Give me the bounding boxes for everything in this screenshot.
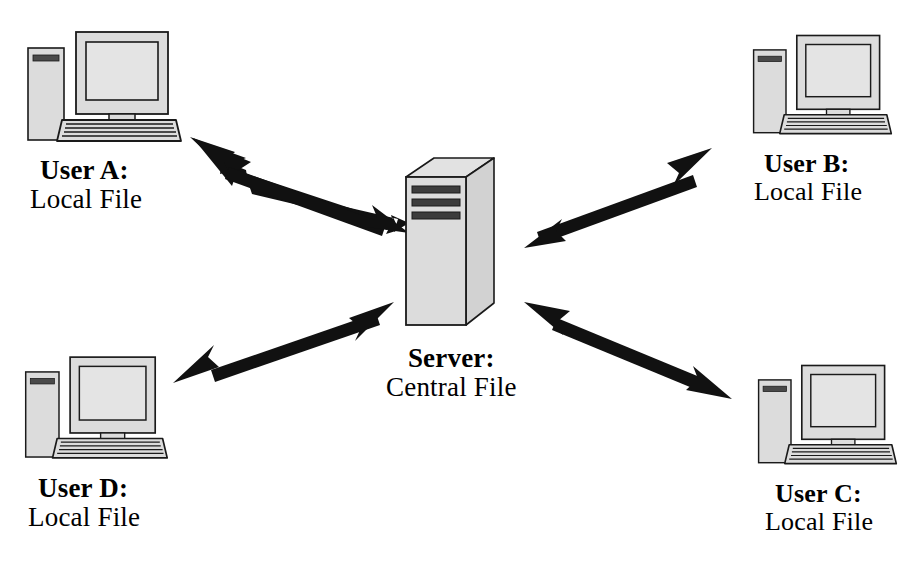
label-user-b: User B: Local File	[754, 150, 894, 205]
arrow-server-user-b	[524, 148, 712, 248]
node-user-a[interactable]: User A: Local File	[24, 28, 184, 213]
server-title: Server:	[386, 344, 517, 373]
server-subtitle: Central File	[386, 373, 517, 402]
label-user-a: User A: Local File	[30, 156, 184, 213]
desktop-computer-icon	[22, 352, 170, 468]
node-user-d[interactable]: User D: Local File	[22, 352, 170, 531]
server-tower-icon	[398, 155, 517, 334]
user-a-subtitle: Local File	[30, 185, 184, 214]
user-d-title: User D:	[28, 474, 170, 503]
desktop-computer-icon	[755, 360, 899, 474]
user-c-title: User C:	[765, 480, 899, 508]
user-d-subtitle: Local File	[28, 503, 170, 532]
user-b-title: User B:	[754, 150, 894, 178]
node-user-b[interactable]: User B: Local File	[750, 30, 894, 205]
arrow-server-user-c	[524, 302, 732, 399]
label-server: Server: Central File	[386, 344, 517, 401]
label-user-c: User C: Local File	[765, 480, 899, 535]
user-a-title: User A:	[30, 156, 184, 185]
node-user-c[interactable]: User C: Local File	[755, 360, 899, 535]
label-user-d: User D: Local File	[28, 474, 170, 531]
diagram-canvas: User A: Local File User B: Local File	[0, 0, 923, 579]
node-server[interactable]: Server: Central File	[398, 155, 517, 401]
user-c-subtitle: Local File	[765, 508, 899, 536]
desktop-computer-icon	[24, 28, 184, 150]
arrow-user-d-server	[173, 302, 394, 383]
desktop-computer-icon	[750, 30, 894, 144]
arrow-user-a-server	[190, 137, 409, 236]
user-b-subtitle: Local File	[754, 178, 894, 206]
